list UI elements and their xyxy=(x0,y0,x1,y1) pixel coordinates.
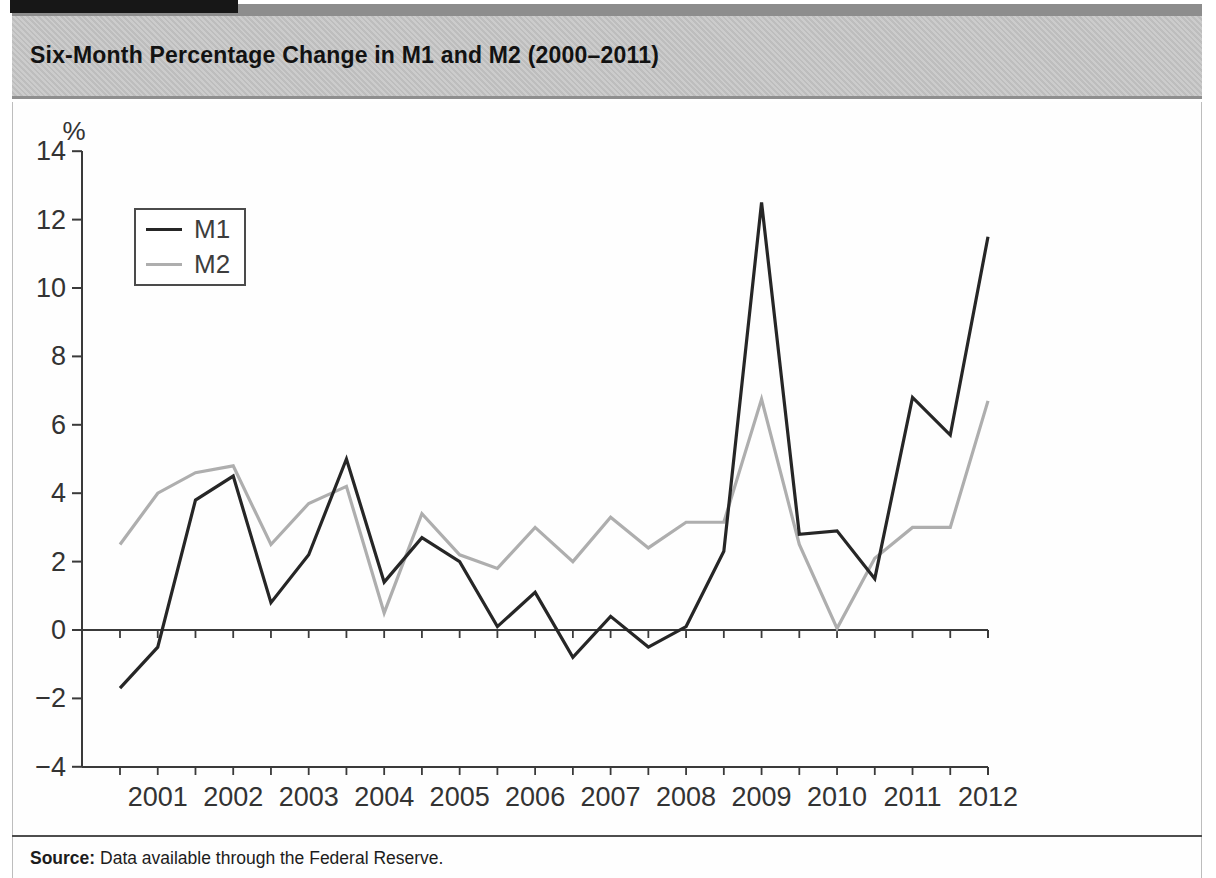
x-tick-label: 2003 xyxy=(279,782,339,812)
y-tick-label: −2 xyxy=(35,683,66,713)
x-tick-label: 2004 xyxy=(354,782,414,812)
chart-legend: M1 M2 xyxy=(134,208,246,286)
source-divider xyxy=(12,835,1202,837)
y-tick-label: 12 xyxy=(36,205,66,235)
x-tick-label: 2001 xyxy=(128,782,188,812)
legend-label-m2: M2 xyxy=(194,249,230,280)
figure-container: Six-Month Percentage Change in M1 and M2… xyxy=(0,0,1216,878)
figure-title-bar: Six-Month Percentage Change in M1 and M2… xyxy=(12,15,1202,99)
x-tick-label: 2008 xyxy=(656,782,716,812)
m2-line xyxy=(120,399,988,628)
source-text: Data available through the Federal Reser… xyxy=(95,848,443,868)
m1-line-swatch xyxy=(146,228,182,231)
y-tick-label: −4 xyxy=(35,752,66,782)
y-tick-label: 10 xyxy=(36,273,66,303)
m1-line xyxy=(120,203,988,689)
chart-canvas: 14121086420−2−4%200120022003200420052006… xyxy=(0,0,1216,878)
y-tick-label: 8 xyxy=(51,341,66,371)
y-tick-label: 6 xyxy=(51,410,66,440)
legend-item-m2: M2 xyxy=(146,249,244,280)
y-tick-label: 4 xyxy=(51,478,66,508)
y-tick-label: 0 xyxy=(51,615,66,645)
m2-line-swatch xyxy=(146,263,182,266)
legend-label-m1: M1 xyxy=(194,214,230,245)
legend-item-m1: M1 xyxy=(146,214,244,245)
x-tick-label: 2006 xyxy=(505,782,565,812)
y-tick-label: 2 xyxy=(51,547,66,577)
x-tick-label: 2011 xyxy=(883,782,941,812)
x-tick-label: 2012 xyxy=(958,782,1018,812)
x-tick-label: 2005 xyxy=(430,782,490,812)
source-label: Source: xyxy=(30,848,95,868)
figure-title: Six-Month Percentage Change in M1 and M2… xyxy=(12,42,659,69)
x-tick-label: 2009 xyxy=(732,782,792,812)
source-note: Source: Data available through the Feder… xyxy=(30,848,443,869)
figure-number-tab xyxy=(10,0,238,13)
x-tick-label: 2007 xyxy=(581,782,641,812)
x-tick-label: 2002 xyxy=(203,782,263,812)
y-axis-unit-label: % xyxy=(62,116,85,146)
x-tick-label: 2010 xyxy=(807,782,867,812)
